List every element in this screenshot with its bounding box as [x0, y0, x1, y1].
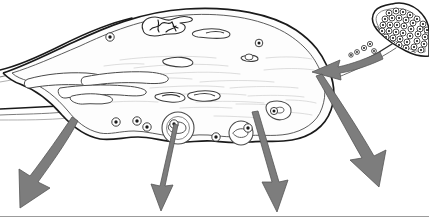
free-vesicle	[245, 54, 253, 60]
neuron-diagram-canvas	[0, 0, 429, 220]
neuron-diagram-figure: Neuron cell body with synaptic input and…	[0, 0, 429, 220]
